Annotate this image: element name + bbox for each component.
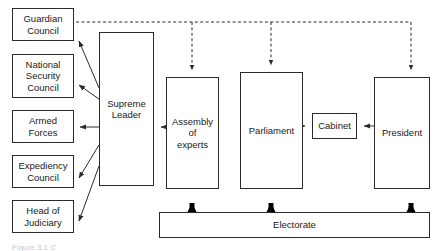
node-national-security-council-label: National Security Council (26, 59, 61, 94)
node-assembly-of-experts-label: Assembly of experts (172, 116, 213, 151)
figure-caption: Figure 3.1 C (12, 243, 56, 251)
node-expediency-council: Expediency Council (12, 155, 74, 188)
edge-supreme-leader-to-national-security-council (79, 85, 99, 99)
node-guardian-council-label: Guardian Council (23, 13, 62, 36)
edge-supreme-leader-to-head-of-judiciary (79, 166, 99, 221)
node-guardian-council: Guardian Council (12, 8, 74, 41)
node-armed-forces-label: Armed Forces (28, 115, 57, 138)
node-supreme-leader-label: Supreme Leader (107, 98, 146, 121)
edge-supreme-leader-to-guardian-council (79, 41, 99, 88)
node-electorate: Electorate (159, 212, 430, 238)
node-president-label: President (382, 127, 422, 139)
political-structure-diagram: Guardian Council National Security Counc… (0, 0, 442, 251)
node-armed-forces: Armed Forces (12, 110, 74, 143)
node-head-of-judiciary: Head of Judiciary (12, 200, 74, 233)
node-assembly-of-experts: Assembly of experts (166, 77, 219, 189)
node-national-security-council: National Security Council (12, 54, 74, 98)
node-expediency-council-label: Expediency Council (18, 160, 67, 183)
node-head-of-judiciary-label: Head of Judiciary (24, 205, 62, 228)
node-cabinet: Cabinet (312, 113, 357, 139)
node-cabinet-label: Cabinet (318, 120, 351, 132)
node-parliament: Parliament (240, 72, 303, 189)
node-parliament-label: Parliament (249, 125, 294, 137)
node-president: President (374, 77, 430, 189)
node-supreme-leader: Supreme Leader (99, 32, 154, 186)
node-electorate-label: Electorate (273, 219, 316, 231)
